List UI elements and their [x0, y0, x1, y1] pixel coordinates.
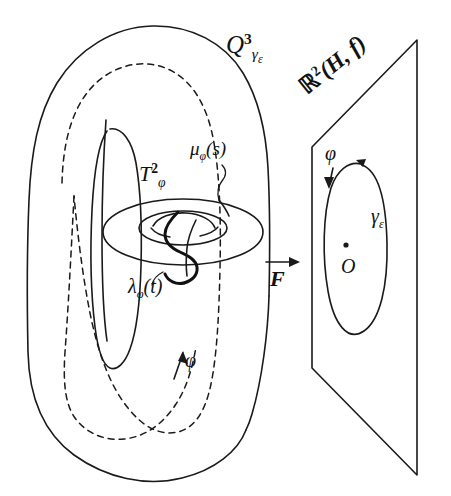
label-T-base: T [139, 161, 151, 186]
label-phi-plane: φ [325, 143, 336, 163]
diagram-svg [0, 0, 451, 496]
label-solid-torus-superscript: 3 [244, 30, 252, 47]
label-phi-plane-base: φ [325, 142, 336, 164]
origin-dot [343, 242, 348, 247]
label-phi-torus: φ [185, 350, 196, 370]
label-invariant-torus: T2φ [139, 162, 166, 189]
label-solid-torus-subscript: γε [252, 45, 263, 62]
label-origin-base: O [341, 255, 355, 277]
label-solid-torus-base: Q [226, 31, 244, 58]
label-solid-torus-subscript-sub: ε [258, 52, 263, 66]
gamma-epsilon-ellipse [324, 159, 387, 334]
label-solid-torus: Q3γε [226, 31, 263, 66]
label-phi-torus-base: φ [185, 349, 196, 371]
label-meridian-curve: μφ(s) [190, 139, 226, 163]
label-mu-base: μ [190, 138, 200, 159]
solid-torus-outline [27, 26, 269, 481]
figure-canvas: Q3γε ℝ2(H, f) μφ(s) T2φ λφ(t) F φ φ γε O [0, 0, 451, 496]
label-F-base: F [270, 266, 285, 291]
label-map-F: F [270, 268, 285, 290]
label-gamma-epsilon: γε [371, 206, 384, 230]
torus-inner-hole [91, 120, 141, 369]
label-mu-args: (s) [206, 138, 226, 159]
label-longitude-curve: λφ(t) [128, 276, 162, 300]
label-lambda-args: (t) [144, 275, 163, 297]
label-lambda-base: λ [128, 275, 137, 297]
label-gamma-base: γ [371, 205, 379, 227]
invariant-torus [103, 199, 263, 265]
label-T-superscript: 2 [151, 161, 158, 176]
label-T-subscript: φ [158, 175, 166, 190]
label-origin: O [341, 256, 355, 276]
target-plane [312, 40, 417, 475]
label-gamma-subscript: ε [379, 217, 384, 231]
label-lambda-subscript: φ [137, 287, 144, 301]
